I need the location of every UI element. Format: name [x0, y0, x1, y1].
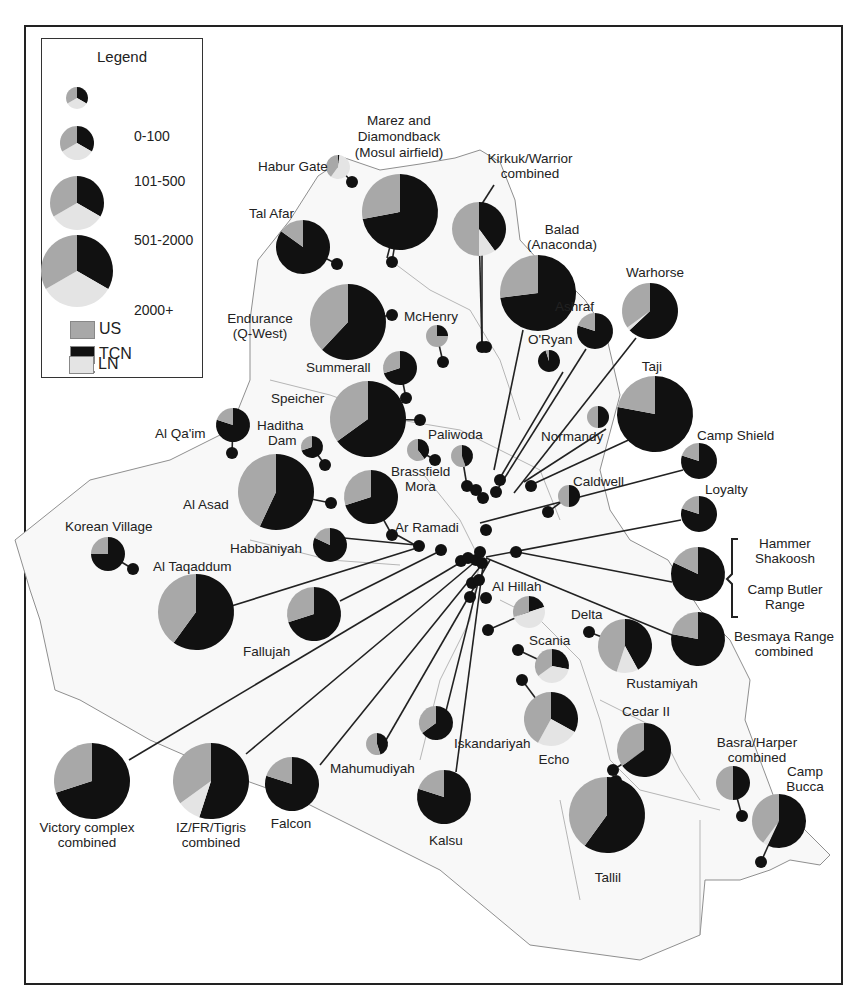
location-dot [755, 856, 767, 868]
site-label: combined [182, 835, 241, 850]
location-dot [437, 356, 449, 368]
pie-al-qaim [216, 408, 250, 442]
location-dot [474, 546, 486, 558]
pie-falcon [265, 757, 319, 811]
location-dot [127, 563, 139, 575]
legend-swatch-us [70, 321, 95, 339]
location-dot [525, 480, 537, 492]
site-label: Caldwell [573, 474, 624, 489]
pie-iz [173, 743, 249, 819]
location-dot [414, 414, 426, 426]
pie-cedar [617, 723, 671, 777]
location-dot [736, 810, 748, 822]
legend: Legend 0-100 101-500 501-2000 2000+ US T… [41, 38, 203, 378]
pie-oryan [538, 350, 560, 372]
site-label: Fallujah [243, 644, 290, 659]
site-label: Al Taqaddum [153, 559, 232, 574]
location-dot [346, 176, 358, 188]
pie-ar-ramadi [344, 470, 398, 524]
location-dot [226, 447, 238, 459]
site-label: Echo [539, 752, 570, 767]
site-label: Range [765, 597, 805, 612]
site-label: Warhorse [626, 265, 684, 280]
pie-taji [617, 376, 693, 452]
pie-marez [362, 174, 438, 250]
site-label: combined [58, 835, 117, 850]
site-label: Victory complex [39, 820, 134, 835]
site-label: Taji [642, 359, 662, 374]
legend-pie-101-500 [60, 126, 94, 160]
pie-slice-tcn [538, 350, 560, 372]
site-label: (Q-West) [233, 326, 288, 341]
location-dot [516, 674, 528, 686]
site-label: Scania [529, 633, 571, 648]
site-label: Speicher [271, 391, 325, 406]
site-label: Camp Butler [747, 582, 823, 597]
pie-habur-gate [326, 155, 350, 179]
site-label: IZ/FR/Tigris [176, 820, 246, 835]
site-label: Mahumudiyah [330, 761, 415, 776]
site-label: Korean Village [65, 519, 153, 534]
pie-scania [535, 649, 569, 683]
site-label: Shakoosh [755, 551, 815, 566]
legend-pie [60, 126, 94, 160]
site-label: Loyalty [705, 482, 748, 497]
pie-brassfield [407, 439, 429, 461]
legend-pie [66, 87, 88, 109]
site-label: Tal Afar [249, 206, 295, 221]
location-dot [386, 256, 398, 268]
site-label: Summerall [306, 360, 371, 375]
location-dot [319, 459, 331, 471]
site-label: Haditha [257, 418, 304, 433]
legend-label-ln: LN [98, 355, 118, 373]
pie-kalsu [417, 770, 471, 824]
pie-basra [716, 766, 750, 800]
site-label: O'Ryan [528, 332, 573, 347]
pie-fallujah [287, 587, 341, 641]
site-label: combined [755, 644, 814, 659]
pie-hammer [671, 547, 725, 601]
site-label: Al Qa'im [155, 426, 206, 441]
pie-al-taqaddum [158, 574, 234, 650]
location-dot [435, 544, 447, 556]
site-label: Tallil [595, 870, 621, 885]
location-dot [490, 486, 502, 498]
legend-size-2000plus: 2000+ [134, 302, 173, 318]
pie-ashraf [577, 313, 613, 349]
legend-label-us: US [99, 320, 121, 338]
location-dot [476, 557, 488, 569]
site-label: Camp Shield [697, 428, 774, 443]
pie-mchenry [426, 325, 448, 347]
pie-iskandariyah [419, 706, 453, 740]
pie-al-asad [238, 454, 314, 530]
pie-camp-bucca [752, 794, 806, 848]
location-dot [325, 497, 337, 509]
legend-pie-2000+ [41, 235, 113, 307]
pie-besmaya [671, 612, 725, 666]
location-dot [607, 764, 619, 776]
pie-korean-village [91, 537, 125, 571]
location-dot [386, 309, 398, 321]
location-dot [510, 546, 522, 558]
pie-habbaniyah [313, 528, 347, 562]
pie-tallil [569, 777, 645, 853]
site-label: Iskandariyah [454, 736, 531, 751]
legend-size-0-100: 0-100 [134, 128, 170, 144]
site-label: Dam [268, 433, 297, 448]
legend-pie-0-100 [66, 87, 88, 109]
pie-mahumudiyah [366, 733, 388, 755]
site-label: Bucca [786, 779, 824, 794]
pie-loyalty [681, 496, 717, 532]
site-label: McHenry [404, 309, 458, 324]
site-label: Cedar II [622, 704, 670, 719]
site-label: Besmaya Range [734, 629, 834, 644]
site-label: combined [728, 750, 787, 765]
site-label: Ar Ramadi [395, 520, 459, 535]
site-label: Mora [405, 479, 436, 494]
legend-pie [50, 176, 104, 230]
legend-swatch-ln [69, 356, 94, 374]
site-label: Ashraf [555, 299, 594, 314]
pie-summerall [383, 351, 417, 385]
location-dot [494, 474, 506, 486]
pie-delta [598, 619, 652, 673]
